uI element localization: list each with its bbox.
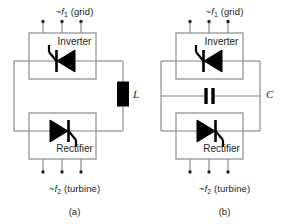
rectifier-label: Rectifier (147, 143, 296, 154)
bottom-terminal-dot-1 (188, 170, 191, 173)
rectifier-label: Rectifier (0, 143, 149, 154)
frequency-subscript: 2 (57, 188, 61, 195)
frequency-source: (turbine) (64, 183, 100, 194)
panel-b-caption: (b) (150, 206, 299, 217)
panel-a: ~f1 (grid) (0, 0, 149, 224)
bottom-terminal-dot-2 (60, 170, 63, 173)
terminal-dot-1 (41, 20, 44, 23)
frequency-source: (turbine) (214, 183, 250, 194)
terminal-dot-2 (60, 20, 63, 23)
terminal-dot-3 (79, 20, 82, 23)
panel-b-turbine-frequency-label: ~f2 (turbine) (150, 183, 299, 197)
capacitor-symbol (206, 88, 213, 104)
inductor-label: L (133, 88, 139, 100)
figure-root: ~f1 (grid) (0, 0, 299, 224)
bottom-terminal-dot-2 (207, 170, 210, 173)
inverter-label: Inverter (147, 36, 296, 47)
panel-a-caption: (a) (0, 206, 149, 217)
capacitor-label: C (266, 88, 273, 100)
terminal-dot-1 (188, 20, 191, 23)
terminal-dot-2 (207, 20, 210, 23)
inductor-symbol (118, 82, 129, 106)
bottom-terminal-dot-3 (226, 170, 229, 173)
inverter-label: Inverter (0, 36, 149, 47)
frequency-subscript: 2 (207, 188, 211, 195)
panel-a-turbine-frequency-label: ~f2 (turbine) (0, 183, 149, 197)
panel-b: ~f1 (grid) (150, 0, 299, 224)
terminal-dot-3 (226, 20, 229, 23)
bottom-terminal-dot-1 (41, 170, 44, 173)
bottom-terminal-dot-3 (79, 170, 82, 173)
